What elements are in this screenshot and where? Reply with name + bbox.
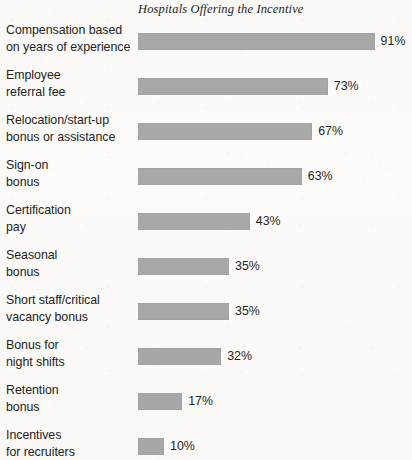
bar-value-label: 73% [334,79,359,94]
bar-track: 17% [138,393,412,410]
bar-category-label-line1: Certification [6,203,71,217]
bar-category-label-line2: bonus or assistance [6,129,136,146]
bar-value-label: 67% [318,124,343,139]
bar-category-label-line2: for recruiters [6,444,136,460]
bar-category-label-line1: Bonus for [6,338,59,352]
bar-track: 35% [138,303,412,320]
bar-track: 73% [138,78,412,95]
bar-category-label: Seasonalbonus [6,247,136,281]
bar-category-label-line1: Compensation based [6,23,122,37]
bar [138,123,312,140]
bar-category-label-line2: bonus [6,174,136,191]
bar-value-label: 91% [381,34,406,49]
bar-row: Relocation/start-upbonus or assistance67… [0,112,412,157]
bar-category-label-line2: bonus [6,399,136,416]
bar-row: Short staff/criticalvacancy bonus35% [0,292,412,337]
bar [138,258,229,275]
bar-category-label: Retentionbonus [6,382,136,416]
bar-value-label: 10% [170,439,195,454]
bar-row: Bonus fornight shifts32% [0,337,412,382]
bar [138,213,250,230]
bar-category-label-line2: night shifts [6,354,136,371]
bar-row: Employeereferral fee73% [0,67,412,112]
bar-category-label-line1: Incentives [6,428,61,442]
bar-category-label: Certificationpay [6,202,136,236]
bar-value-label: 35% [235,259,260,274]
bar-track: 63% [138,168,412,185]
horizontal-bar-chart: Hospitals Offering the Incentive Compens… [0,0,412,460]
bar-row: Seasonalbonus35% [0,247,412,292]
bar-category-label: Compensation basedon years of experience [6,22,136,56]
chart-title: Hospitals Offering the Incentive [138,2,304,17]
bar-track: 67% [138,123,412,140]
bar-category-label-line1: Retention [6,383,59,397]
bar-category-label-line2: vacancy bonus [6,309,136,326]
bar-row: Incentivesfor recruiters10% [0,427,412,460]
bar-category-label: Incentivesfor recruiters [6,427,136,460]
bar-category-label-line1: Short staff/critical [6,293,100,307]
bar-track: 10% [138,438,412,455]
bar-track: 43% [138,213,412,230]
bar [138,348,221,365]
bar-row: Sign-onbonus63% [0,157,412,202]
bar [138,33,375,50]
bar-category-label: Bonus fornight shifts [6,337,136,371]
bar-category-label: Sign-onbonus [6,157,136,191]
bar [138,438,164,455]
bar-track: 35% [138,258,412,275]
bar-value-label: 63% [308,169,333,184]
bar [138,78,328,95]
bar-value-label: 35% [235,304,260,319]
bar-category-label-line2: referral fee [6,84,136,101]
bar-category-label: Relocation/start-upbonus or assistance [6,112,136,146]
bar [138,393,182,410]
bar [138,168,302,185]
bar-category-label-line1: Relocation/start-up [6,113,109,127]
bar-track: 32% [138,348,412,365]
bar-category-label-line2: pay [6,219,136,236]
bar-category-label: Employeereferral fee [6,67,136,101]
bar-category-label-line2: on years of experience [6,39,136,56]
bar-category-label: Short staff/criticalvacancy bonus [6,292,136,326]
bar-value-label: 43% [256,214,281,229]
bar-row: Certificationpay43% [0,202,412,247]
bar-category-label-line1: Sign-on [6,158,48,172]
bar-row: Retentionbonus17% [0,382,412,427]
bar-value-label: 17% [188,394,213,409]
bar-category-label-line1: Seasonal [6,248,57,262]
bar-track: 91% [138,33,412,50]
chart-plot-area: Compensation basedon years of experience… [0,22,412,460]
bar-row: Compensation basedon years of experience… [0,22,412,67]
bar-category-label-line1: Employee [6,68,61,82]
bar [138,303,229,320]
bar-category-label-line2: bonus [6,264,136,281]
bar-value-label: 32% [227,349,252,364]
